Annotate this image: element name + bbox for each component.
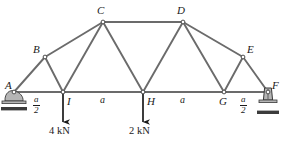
load-at-H-label: 2 kN	[129, 126, 150, 137]
member-EG	[224, 57, 243, 92]
dim-A-I: a2	[33, 95, 40, 116]
dim-G-F-fraction: a2	[240, 95, 247, 116]
node-label-A: A	[5, 80, 12, 91]
truss-joints-group	[12, 20, 270, 94]
node-label-I: I	[67, 96, 71, 107]
member-DH	[143, 22, 183, 92]
truss-diagram-canvas: ABCDEFGHIa2aaa24 kN2 kN	[0, 0, 287, 146]
support-base-plate	[259, 100, 277, 103]
joint-D	[181, 20, 185, 24]
dim-A-I-fraction: a2	[33, 95, 40, 116]
dim-I-H: a	[100, 95, 105, 105]
node-label-D: D	[177, 5, 185, 16]
support-base-plate	[2, 101, 26, 104]
truss-members-group	[14, 22, 268, 92]
joint-A	[12, 90, 16, 94]
dim-A-I-numerator: a	[33, 95, 40, 104]
member-AB	[14, 57, 45, 92]
dim-G-F: a2	[240, 95, 247, 116]
member-CI	[63, 22, 103, 92]
member-BC	[45, 22, 103, 57]
joint-F	[266, 90, 270, 94]
joint-B	[43, 55, 47, 59]
joint-H	[141, 90, 145, 94]
joint-I	[61, 90, 65, 94]
ground-hatch	[257, 111, 279, 114]
node-label-E: E	[247, 44, 254, 55]
member-DE	[183, 22, 243, 57]
member-BI	[45, 57, 63, 92]
dim-A-I-denominator: 2	[33, 106, 40, 115]
joint-G	[222, 90, 226, 94]
node-label-H: H	[147, 96, 155, 107]
dim-H-G: a	[180, 95, 185, 105]
node-label-F: F	[272, 80, 279, 91]
member-EF	[243, 57, 268, 92]
node-label-C: C	[97, 5, 104, 16]
joint-C	[101, 20, 105, 24]
dim-G-F-denominator: 2	[240, 106, 247, 115]
node-label-G: G	[219, 96, 227, 107]
dim-G-F-numerator: a	[240, 95, 247, 104]
ground-hatch	[1, 107, 27, 110]
node-label-B: B	[33, 44, 40, 55]
member-CH	[103, 22, 143, 92]
joint-E	[241, 55, 245, 59]
member-DG	[183, 22, 224, 92]
load-at-I-label: 4 kN	[49, 126, 70, 137]
